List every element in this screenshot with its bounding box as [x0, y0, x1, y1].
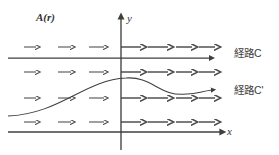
- path-c-prime-label: 経路C': [234, 85, 264, 96]
- axes-group: [8, 18, 221, 150]
- path-c-prime-curve: [8, 78, 212, 116]
- vector-field-diagram: A(r) y x 経路C 経路C': [0, 0, 279, 155]
- integration-paths: [8, 58, 212, 116]
- y-axis-label: y: [127, 13, 132, 24]
- path-c-label: 経路C: [234, 48, 262, 59]
- diagram-canvas: [0, 0, 279, 155]
- x-axis-label: x: [227, 126, 232, 137]
- field-label: A(r): [36, 12, 55, 23]
